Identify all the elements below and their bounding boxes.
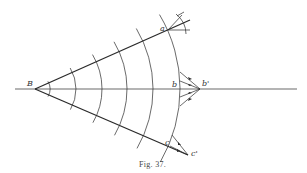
figure-diagram: B a b b' c c' Fig. 37.	[0, 0, 307, 173]
concentric-arcs	[48, 15, 180, 162]
arc-5	[136, 29, 153, 149]
label-a: a	[160, 24, 165, 33]
label-c: c	[165, 138, 170, 147]
arc-3	[93, 55, 102, 123]
label-b-prime: b'	[202, 79, 209, 88]
label-b: b	[172, 80, 177, 89]
label-c-prime: c'	[191, 149, 198, 158]
label-vertex-b: B	[26, 79, 33, 88]
arrows-to-c-prime	[170, 135, 188, 155]
construction-at-a	[168, 12, 190, 34]
arc-4	[114, 42, 127, 136]
figure-caption: Fig. 37.	[139, 160, 166, 169]
upper-ray	[35, 20, 190, 89]
